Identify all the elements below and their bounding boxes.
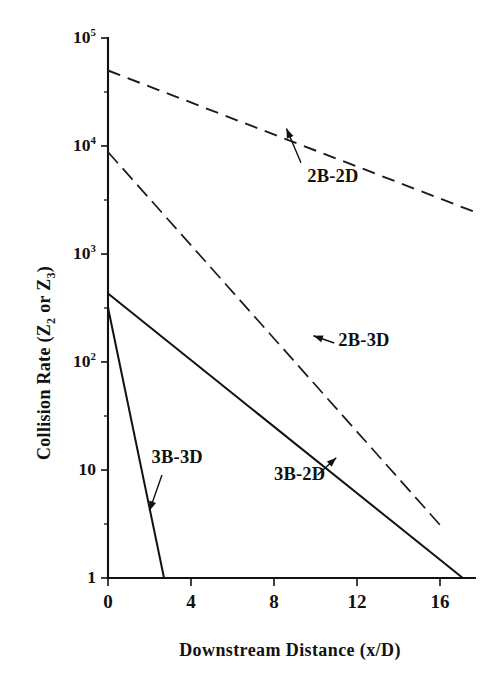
axes (108, 38, 475, 578)
data-series (108, 71, 477, 578)
x-tick-label: 0 (103, 592, 113, 611)
y-tick-label: 105 (73, 29, 96, 47)
arrowhead-2b-3d (313, 335, 323, 342)
arrowhead-2b-2d (286, 129, 293, 139)
y-tick-label: 1 (87, 569, 96, 587)
series-label-3b-3d: 3B-3D (152, 448, 203, 467)
chart-plot-area (0, 0, 494, 685)
y-tick-label: 102 (73, 353, 96, 371)
y-tick-label: 10 (79, 461, 97, 479)
series-line-3b-2d (108, 294, 463, 578)
x-axis-title: Downstream Distance (x/D) (179, 640, 401, 661)
series-label-2b-2d: 2B-2D (307, 167, 358, 186)
x-tick-label: 16 (431, 592, 450, 611)
series-label-3b-2d: 3B-2D (274, 465, 325, 484)
figure-container: 110102103104105 0481216 2B-2D2B-3D3B-2D3… (0, 0, 494, 685)
x-tick-label: 12 (348, 592, 367, 611)
series-label-2b-3d: 2B-3D (338, 331, 389, 350)
series-line-3b-3d (108, 307, 164, 578)
y-axis-title: Collision Rate (Z2 or Z3) (34, 266, 55, 460)
x-tick-label: 8 (269, 592, 279, 611)
y-tick-label: 103 (73, 245, 96, 263)
arrowhead-3b-3d (149, 501, 156, 511)
x-tick-label: 4 (186, 592, 196, 611)
y-tick-label: 104 (73, 137, 96, 155)
